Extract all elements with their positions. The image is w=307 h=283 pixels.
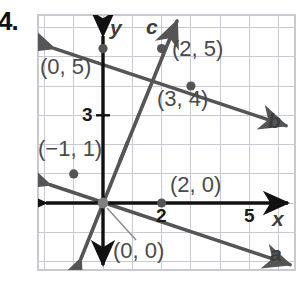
y-tick-label-3: 3: [82, 105, 93, 124]
x-tick-label-5: 5: [244, 206, 255, 225]
dot-n1-1: [69, 169, 78, 178]
dot-2-5: [157, 44, 166, 53]
line-c-label: c: [146, 16, 158, 37]
line-b-label: b: [268, 110, 281, 131]
annotation-point-n1-1: (−1, 1): [38, 138, 102, 160]
annotation-point-3-4: (3, 4): [157, 88, 208, 110]
line-a-label: a: [270, 243, 282, 264]
dot-0-5: [98, 44, 107, 53]
annotation-point-0-0: (0, 0): [113, 240, 164, 262]
coordinate-plane: y x a b c 3 2 5 (0, 5) (2, 5) (3, 4) (−1…: [0, 0, 307, 283]
x-tick-label-2: 2: [156, 206, 167, 225]
annotation-point-2-5: (2, 5): [172, 38, 223, 60]
annotation-point-0-5: (0, 5): [40, 56, 91, 78]
dot-0-0: [98, 198, 109, 209]
annotation-point-2-0: (2, 0): [170, 174, 221, 196]
y-axis-label: y: [110, 17, 122, 38]
graph-figure: 4.: [0, 0, 307, 283]
x-axis-label: x: [272, 208, 284, 229]
